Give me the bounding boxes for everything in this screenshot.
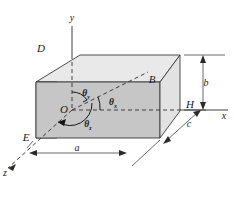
dimension-b-arrow-up xyxy=(200,55,206,63)
axis-label-y: y xyxy=(69,12,75,23)
dimension-label-b: b xyxy=(204,77,209,88)
dimension-a-arrow-left xyxy=(29,150,37,156)
point-label-D: D xyxy=(36,42,45,54)
point-label-O: O xyxy=(60,103,68,115)
top-face xyxy=(36,55,180,82)
box-diagram: D B H E O y x z θy θx θz a b xyxy=(0,0,234,222)
dimension-a-arrow-right xyxy=(119,150,127,156)
dimension-b-arrow-down xyxy=(200,102,206,110)
point-label-B: B xyxy=(149,73,156,85)
point-label-E: E xyxy=(22,131,30,143)
front-face xyxy=(36,82,160,138)
angle-theta-x-subscript: x xyxy=(113,103,117,109)
point-label-H: H xyxy=(185,98,195,110)
axis-label-x: x xyxy=(221,110,227,121)
dimension-c-arrow-ne xyxy=(193,110,201,117)
figure-container: D B H E O y x z θy θx θz a b xyxy=(0,0,234,222)
dimension-label-c: c xyxy=(187,118,192,129)
dimension-a-group xyxy=(27,140,160,166)
angle-theta-y-subscript: y xyxy=(86,94,90,100)
box-faces xyxy=(36,55,180,138)
axis-z-arrowhead xyxy=(8,164,16,171)
axis-label-z: z xyxy=(2,167,7,178)
dimension-label-a: a xyxy=(75,142,80,153)
dimension-a-ext-right xyxy=(132,140,160,166)
